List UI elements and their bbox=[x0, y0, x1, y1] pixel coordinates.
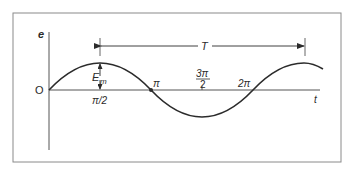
label-pi: π bbox=[153, 78, 160, 89]
label-three-pi-numerator: 3π bbox=[196, 68, 209, 79]
origin-label: O bbox=[35, 84, 44, 96]
label-half-pi: π/2 bbox=[92, 95, 107, 106]
figure-frame bbox=[13, 13, 341, 162]
label-three-pi-denominator: 2 bbox=[200, 79, 206, 90]
label-two-pi: 2π bbox=[237, 78, 251, 89]
amplitude-label: E bbox=[92, 71, 100, 83]
amplitude-subscript: m bbox=[100, 77, 107, 86]
x-axis-label: t bbox=[314, 94, 318, 105]
period-label: T bbox=[201, 40, 209, 52]
y-axis-label: e bbox=[38, 28, 44, 40]
sine-wave-diagram: e t O E m T π/2 π 3π 2 2π bbox=[0, 0, 352, 176]
